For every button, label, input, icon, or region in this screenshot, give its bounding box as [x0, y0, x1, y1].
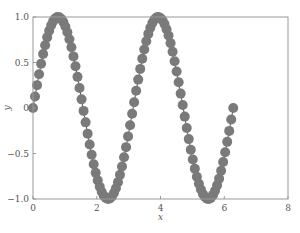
data-series — [28, 12, 238, 204]
data-point-marker — [34, 69, 44, 79]
data-point-marker — [172, 66, 182, 76]
sine-chart: 02468 −1.0−0.500.51.0 x y — [0, 0, 300, 233]
data-point-marker — [85, 139, 95, 149]
data-point-marker — [180, 112, 190, 122]
data-point-marker — [170, 56, 180, 66]
data-point-marker — [139, 45, 149, 55]
data-point-marker — [222, 137, 232, 147]
data-point-marker — [131, 86, 141, 96]
data-point-marker — [36, 59, 46, 69]
y-tick-label: −0.5 — [7, 149, 29, 159]
data-point-marker — [115, 170, 125, 180]
data-point-marker — [79, 106, 89, 116]
data-point-marker — [129, 97, 139, 107]
data-point-marker — [119, 152, 129, 162]
data-point-marker — [188, 155, 198, 165]
data-point-marker — [174, 77, 184, 87]
x-tick-label: 8 — [285, 203, 291, 213]
data-point-marker — [117, 162, 127, 172]
x-axis-label: x — [158, 212, 163, 222]
data-point-marker — [66, 42, 76, 52]
y-axis-label: y — [2, 105, 12, 112]
data-point-marker — [77, 94, 87, 104]
x-tick-label: 2 — [94, 203, 100, 213]
data-point-marker — [220, 147, 230, 157]
data-point-marker — [226, 115, 236, 125]
data-point-marker — [176, 89, 186, 99]
data-point-marker — [121, 142, 131, 152]
x-tick-label: 0 — [30, 203, 36, 213]
data-point-marker — [70, 61, 80, 71]
y-tick-label: −1.0 — [7, 194, 29, 204]
data-point-marker — [87, 150, 97, 160]
data-point-marker — [38, 49, 48, 59]
data-point-marker — [168, 47, 178, 57]
y-tick-label: 0.5 — [15, 58, 30, 68]
data-point-marker — [32, 80, 42, 90]
y-tick-label: 0 — [23, 103, 29, 113]
data-point-marker — [182, 123, 192, 133]
data-point-marker — [228, 103, 238, 113]
data-point-marker — [127, 109, 137, 119]
series-line — [33, 17, 233, 199]
data-point-marker — [73, 72, 83, 82]
data-point-marker — [125, 120, 135, 130]
data-point-marker — [133, 75, 143, 85]
x-tick-label: 6 — [221, 203, 227, 213]
y-tick-label: 1.0 — [15, 12, 30, 22]
data-point-marker — [166, 38, 176, 48]
data-point-marker — [68, 51, 78, 61]
data-point-marker — [218, 157, 228, 167]
data-point-marker — [186, 145, 196, 155]
data-point-marker — [123, 131, 133, 141]
data-point-marker — [135, 64, 145, 74]
data-point-marker — [184, 134, 194, 144]
data-point-marker — [75, 83, 85, 93]
data-point-marker — [137, 54, 147, 64]
data-point-marker — [178, 100, 188, 110]
data-point-marker — [30, 91, 40, 101]
data-point-marker — [81, 117, 91, 127]
data-point-marker — [83, 129, 93, 139]
data-point-marker — [224, 126, 234, 136]
data-point-marker — [89, 159, 99, 169]
data-point-marker — [216, 166, 226, 176]
